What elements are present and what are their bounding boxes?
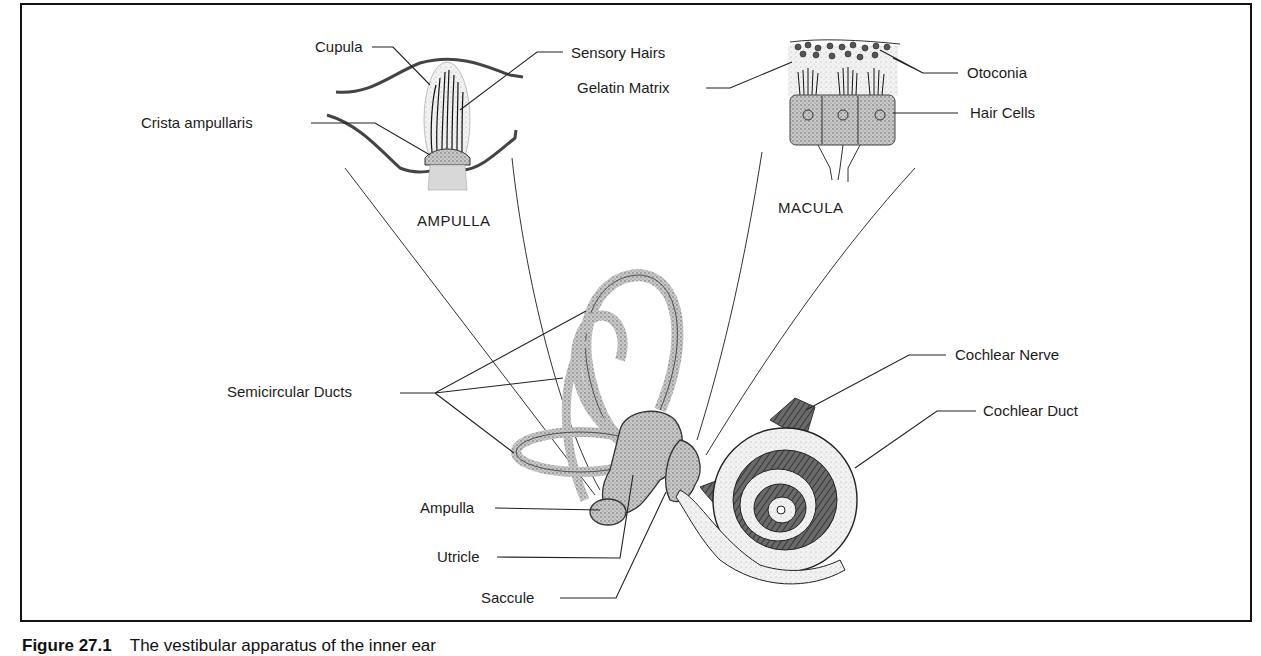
cochlea [676, 398, 857, 584]
macula-detail-drawing [788, 40, 900, 182]
label-saccule: Saccule [481, 589, 534, 606]
caption-number: Figure 27.1 [22, 636, 112, 655]
label-cochlear-nerve: Cochlear Nerve [955, 346, 1059, 363]
section-title-ampulla: AMPULLA [417, 212, 491, 229]
label-semicircular-ducts: Semicircular Ducts [227, 383, 352, 400]
membranous-labyrinth [516, 275, 700, 525]
ampulla-detail-drawing [327, 59, 523, 190]
label-crista-ampullaris: Crista ampullaris [141, 114, 253, 131]
label-sensory-hairs: Sensory Hairs [571, 44, 665, 61]
label-utricle: Utricle [437, 548, 480, 565]
label-hair-cells: Hair Cells [970, 104, 1035, 121]
caption-text: The vestibular apparatus of the inner ea… [130, 636, 436, 655]
label-gelatin-matrix: Gelatin Matrix [577, 79, 670, 96]
figure-caption: Figure 27.1The vestibular apparatus of t… [22, 636, 436, 656]
label-cochlear-duct: Cochlear Duct [983, 402, 1078, 419]
label-cupula: Cupula [315, 38, 363, 55]
section-title-macula: MACULA [778, 199, 844, 216]
label-ampulla: Ampulla [420, 499, 474, 516]
label-otoconia: Otoconia [967, 64, 1027, 81]
